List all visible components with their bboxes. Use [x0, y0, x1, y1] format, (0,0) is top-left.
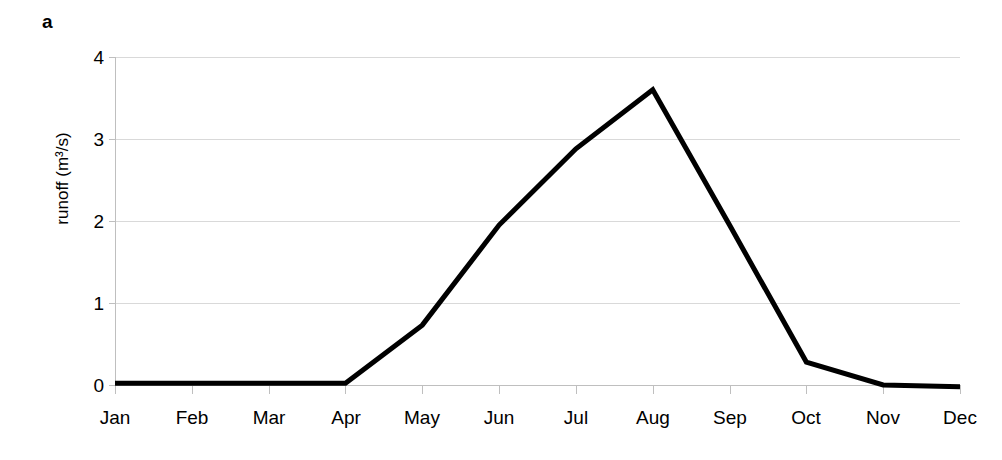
x-axis-tick-marks: [116, 385, 961, 394]
runoff-data-line: [115, 90, 960, 387]
y-axis-tick-marks: [109, 58, 115, 386]
plot-area: [0, 0, 1002, 460]
gridlines: [115, 58, 960, 304]
figure-panel-a: a runoff (m³/s) 4 3 2 1 0 Jan Feb Mar Ap…: [0, 0, 1002, 460]
